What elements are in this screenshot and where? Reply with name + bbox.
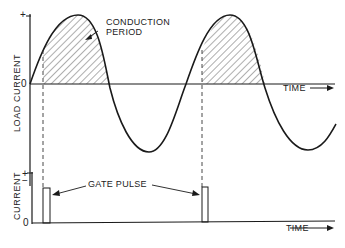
conduction-label-line1: CONDUCTION bbox=[106, 18, 170, 27]
upper-plus-label: + bbox=[20, 10, 26, 20]
gate-pulse-2 bbox=[202, 187, 208, 222]
upper-y-axis-label: LOAD CURRENT bbox=[13, 54, 22, 132]
conduction-label-line2: PERIOD bbox=[106, 28, 142, 37]
upper-time-label: TIME bbox=[283, 84, 306, 93]
gate-pulse-1 bbox=[43, 188, 50, 223]
scr-waveform-diagram: + 0 − LOAD CURRENT CONDUCTION PERIOD TIM… bbox=[0, 0, 345, 248]
waveform-figure bbox=[0, 0, 345, 248]
lower-plus-label: + bbox=[22, 169, 28, 179]
conduction-region-2 bbox=[202, 15, 265, 84]
gate-pulse-label: GATE PULSE bbox=[88, 180, 147, 189]
lower-zero-label: 0 bbox=[23, 218, 29, 228]
conduction-region-1 bbox=[43, 15, 109, 84]
lower-time-label: TIME bbox=[286, 224, 309, 233]
lower-y-axis-label: CURRENT bbox=[13, 172, 22, 220]
